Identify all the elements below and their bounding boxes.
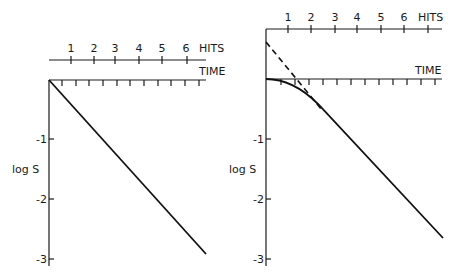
right-time-ticks	[281, 79, 435, 85]
left-hits-label: HITS	[199, 42, 224, 55]
right-hits-tick-6: 6	[401, 11, 408, 24]
left-hits-tick-1: 1	[68, 42, 75, 55]
left-hits-tick-6: 6	[183, 42, 190, 55]
right-hits-tick-4: 4	[354, 11, 361, 24]
left-hits-tick-4: 4	[136, 42, 143, 55]
right-hits-tick-3: 3	[332, 11, 339, 24]
left-hits-tick-2: 2	[91, 42, 98, 55]
right-y-label: log S	[229, 163, 256, 176]
survival-curves-figure: 1 2 3 4 5 6 HITS TIME -1 -2 -3 l	[0, 0, 458, 275]
right-time-label: TIME	[414, 64, 441, 77]
left-y-label: log S	[12, 163, 39, 176]
left-y-tick-minus3: -3	[36, 253, 47, 266]
right-hits-tick-2: 2	[308, 11, 315, 24]
right-hits-tick-1: 1	[285, 11, 292, 24]
right-y-tick-minus1: -1	[253, 133, 264, 146]
left-panel: 1 2 3 4 5 6 HITS TIME -1 -2 -3 l	[12, 42, 225, 266]
right-y-tick-minus2: -2	[253, 193, 264, 206]
left-y-tick-minus2: -2	[36, 193, 47, 206]
right-survival-curve	[266, 79, 443, 238]
left-time-label: TIME	[198, 65, 225, 78]
left-survival-line	[49, 80, 206, 254]
right-panel: 1 2 3 4 5 6 HITS TIME -1 -2 -	[229, 11, 443, 266]
left-hits-tick-5: 5	[159, 42, 166, 55]
right-hits-label: HITS	[418, 11, 443, 24]
left-time-ticks	[62, 80, 199, 86]
right-y-tick-minus3: -3	[253, 253, 264, 266]
left-y-tick-minus1: -1	[36, 133, 47, 146]
right-hits-tick-5: 5	[378, 11, 385, 24]
left-hits-tick-3: 3	[112, 42, 119, 55]
